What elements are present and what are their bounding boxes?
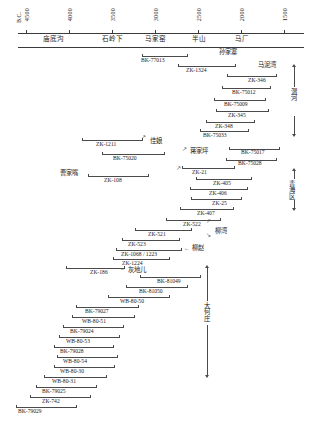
period-label-shilingxia: 石岭下 (90, 36, 134, 43)
site-label-sunjiazhai: 孙家寨 (219, 49, 237, 55)
sample-bar-cap (191, 197, 192, 200)
jiangjiaping-pointer-icon: ↗ (182, 147, 187, 153)
sample-bar-cap (276, 74, 277, 77)
sample-bar-cap (114, 365, 115, 368)
sample-bar-cap (134, 315, 135, 318)
sample-label: ZK-1211 (96, 142, 116, 148)
period-label-banshan: 半山 (177, 36, 221, 43)
sample-bar-cap (191, 228, 192, 231)
axis-tick-label: 4500 (24, 8, 30, 21)
sample-label: WB-80-31 (52, 379, 76, 385)
region-rule-dahezhuang (207, 268, 208, 301)
sample-bar-cap (206, 120, 207, 123)
sample-bar-cap (265, 98, 266, 101)
sample-label: ZK-108 (104, 178, 122, 184)
sample-bar-cap (113, 257, 114, 260)
sample-bar-cap (108, 295, 109, 298)
sample-label: ZK-405 (213, 181, 231, 187)
sample-label: WB-80-54 (63, 359, 87, 365)
sample-bar-cap (63, 325, 64, 328)
sample-bar-cap (16, 405, 17, 408)
sample-label: BK-75033 (203, 133, 227, 139)
sample-bar-cap (36, 385, 37, 388)
huidier-pointer-icon: ← (120, 266, 126, 272)
sample-label: WB-80-50 (120, 299, 144, 305)
site-label-liuzhao: 柳赵 (192, 245, 204, 251)
sample-bar-cap (122, 238, 123, 241)
sample-bar-cap (88, 174, 89, 177)
sample-bar-cap (200, 275, 201, 278)
axis-tick (284, 30, 285, 34)
axis-tick-label: 2500 (196, 8, 202, 21)
sample-bar-cap (169, 257, 170, 260)
axis-tick-label: 4000 (67, 8, 73, 21)
sample-label: BK-75020 (113, 156, 137, 162)
sample-label: BK-75028 (238, 161, 262, 167)
sample-bar-cap (178, 64, 179, 67)
sample-bar-cap (59, 335, 60, 338)
sample-label: BK-79027 (85, 309, 109, 315)
sample-bar-cap (251, 177, 252, 180)
sample-bar-cap (196, 177, 197, 180)
sample-bar-cap (235, 64, 236, 67)
axis-tick (112, 30, 113, 34)
sample-label: BK-79029 (18, 409, 42, 415)
sample-bar-cap (116, 248, 117, 251)
sample-bar-cap (123, 325, 124, 328)
site-label-jiangjiaping: 蒋家坪 (190, 148, 208, 154)
sample-bar-cap (102, 152, 103, 155)
sample-bar (182, 168, 234, 169)
sample-label: WB-80-51 (82, 319, 106, 325)
sample-bar-cap (214, 98, 215, 101)
sample-bar-cap (241, 197, 242, 200)
sample-label: ZK-742 (42, 399, 60, 405)
sample-label: ZK-1068 / 1223 (121, 252, 157, 258)
sample-bar-cap (247, 187, 248, 190)
axis-unit-bc: B.C. (16, 12, 22, 23)
sample-bar-cap (138, 305, 139, 308)
sample-bar-cap (187, 285, 188, 288)
liuzhao-pointer-icon: ← (184, 246, 190, 252)
sample-bar-cap (72, 315, 73, 318)
sample-bar-cap (30, 395, 31, 398)
sample-bar-cap (117, 355, 118, 358)
sample-label: BK-77013 (141, 58, 165, 64)
sample-bar-cap (181, 248, 182, 251)
sample-bar-cap (276, 158, 277, 161)
sample-label: WB-80-53 (66, 339, 90, 345)
sample-bar-cap (190, 187, 191, 190)
sample-bar-cap (254, 120, 255, 123)
sample-bar-cap (229, 147, 230, 150)
axis-tick (241, 30, 242, 34)
sample-bar-cap (216, 109, 217, 112)
axis-tick (198, 30, 199, 34)
sample-bar-cap (233, 207, 234, 210)
sample-bar-cap (140, 275, 141, 278)
sample-bar-cap (166, 218, 167, 221)
region-rule-qinghai (294, 171, 295, 179)
region-label-dahezhuang: 大何庄 (203, 302, 210, 321)
axis-tick-label: 1500 (282, 8, 288, 21)
chronology-chart: B.C. 4500 4000 3500 3000 2500 2000 1500 … (0, 0, 312, 422)
region-rule-wei-lower (294, 116, 295, 134)
region-label-qinghai: 青海区 (288, 180, 295, 199)
sample-label: ZK-21 (192, 170, 207, 176)
sample-label: ZK-345 (228, 113, 246, 119)
sample-bar-cap (227, 74, 228, 77)
site-label-liuwan: 柳湾 (215, 228, 227, 234)
sample-label: BK-75012 (232, 90, 256, 96)
sample-label: ZK-346 (248, 78, 266, 84)
period-label-majiayao: 马家窑 (133, 36, 177, 43)
sample-label: ZK-406 (209, 191, 227, 197)
sample-label: BK-81049 (157, 279, 181, 285)
sample-bar-cap (119, 335, 120, 338)
sample-bar-cap (54, 345, 55, 348)
sample-bar-cap (234, 166, 235, 169)
jianiang-pointer-icon: ↗ (141, 135, 146, 141)
period-label-machang: 马厂 (220, 36, 264, 43)
region-arrow-down-qinghai (292, 208, 296, 211)
sample-label: ZK-348 (215, 124, 233, 130)
sample-label: ZK-25 (212, 201, 227, 207)
sample-label: ZK-522 (183, 222, 201, 228)
axis-tick (26, 30, 27, 34)
